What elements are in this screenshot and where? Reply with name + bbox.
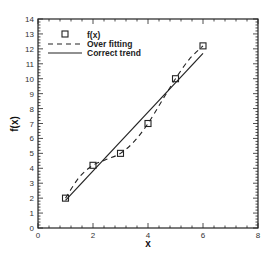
- y-tick-label: 6: [30, 134, 35, 143]
- legend-square-icon: [62, 31, 68, 37]
- data-point-square-icon: [200, 43, 206, 49]
- y-tick-label: 11: [26, 60, 35, 69]
- legend: f(x) Over fitting Correct trend: [48, 30, 141, 59]
- y-tick-label: 13: [25, 30, 34, 39]
- data-point-square-icon: [90, 162, 96, 168]
- legend-label-fx: f(x): [87, 30, 100, 40]
- y-tick-label: 9: [30, 90, 35, 99]
- x-tick-label: 6: [201, 231, 206, 240]
- y-tick-label: 2: [30, 194, 35, 203]
- y-tick-label: 4: [30, 164, 35, 173]
- y-tick-label: 7: [30, 120, 35, 129]
- y-tick-label: 12: [25, 45, 34, 54]
- x-tick-label: 8: [256, 231, 261, 240]
- axis-tick-labels: 0246801234567891011121314: [25, 15, 261, 240]
- y-tick-label: 8: [30, 105, 35, 114]
- correct-trend-line: [66, 53, 204, 200]
- x-tick-label: 0: [36, 231, 41, 240]
- data-point-square-icon: [63, 195, 69, 201]
- data-point-square-icon: [118, 150, 124, 156]
- y-tick-label: 3: [30, 179, 35, 188]
- y-axis-title: f(x): [9, 116, 20, 132]
- series-layer: [63, 43, 207, 201]
- data-point-square-icon: [173, 76, 179, 82]
- x-tick-label: 2: [91, 231, 96, 240]
- legend-label-correct-trend: Correct trend: [87, 48, 141, 58]
- x-axis-title: x: [145, 238, 151, 249]
- over-fitting-curve: [66, 46, 204, 198]
- y-tick-label: 1: [30, 209, 35, 218]
- data-point-square-icon: [145, 121, 151, 127]
- chart-canvas: 0246801234567891011121314 f(x) Over fitt…: [0, 0, 272, 257]
- y-tick-label: 0: [30, 224, 35, 233]
- y-tick-label: 10: [25, 75, 34, 84]
- y-tick-label: 5: [30, 149, 35, 158]
- y-tick-label: 14: [25, 15, 34, 24]
